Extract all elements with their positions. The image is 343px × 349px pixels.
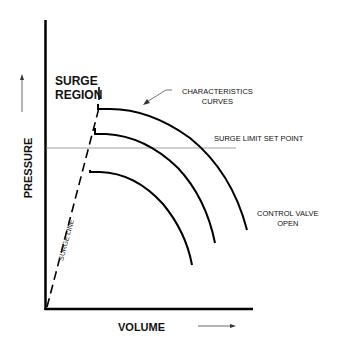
surge-line [47,104,100,307]
pressure-arrowhead-icon [20,74,24,80]
surge-region-line-2: REGION [55,88,102,102]
characteristic-curve-3 [90,170,192,265]
surge-limit-set-point-label: SURGE LIMIT SET POINT [214,135,303,143]
surge-region-label: SURGE REGION [55,74,102,102]
characteristics-curves-label: CHARACTERISTICS CURVES [182,87,253,107]
characteristics-pointer-arrow [145,90,172,103]
control-valve-line-2: OPEN [257,219,319,229]
surge-region-line-1: SURGE [55,74,102,88]
x-axis-label: VOLUME [118,322,165,333]
volume-arrowhead-icon [230,324,236,328]
control-valve-line-1: CONTROL VALVE [257,209,319,219]
characteristics-arrowhead-icon [143,99,150,105]
characteristics-curves-line-2: CURVES [182,97,253,107]
y-axis-label: PRESSURE [23,138,34,199]
surge-diagram-canvas [0,0,343,349]
characteristics-curves-line-1: CHARACTERISTICS [182,87,253,97]
characteristic-curve-1 [98,104,247,230]
control-valve-open-label: CONTROL VALVE OPEN [257,209,319,229]
